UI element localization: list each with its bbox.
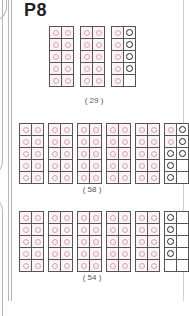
ten-frame-cell [177,136,188,147]
ten-frame-cell [107,260,118,271]
pink-circle-icon [35,215,41,221]
ten-frame-cell [20,136,31,147]
pink-circle-icon [110,163,116,169]
ten-frame-cell [49,136,60,147]
ten-frame-cell [177,148,188,159]
ten-frame-cell [107,248,118,259]
pink-circle-icon [84,78,90,84]
ten-frame-cell [119,124,130,135]
ten-frame-cell [20,124,31,135]
ten-frame-block [49,26,74,87]
ten-frame-cell [177,260,188,271]
pink-circle-icon [23,239,29,245]
ten-frame-cell [119,212,130,223]
pink-circle-icon [64,139,70,145]
pink-circle-icon [93,263,99,269]
ten-frame-cell [90,260,101,271]
ten-frame-cell [119,248,130,259]
pink-circle-icon [81,239,87,245]
ten-frame-cell [136,236,147,247]
ten-frame-cell [119,136,130,147]
pink-circle-icon [23,127,29,133]
black-circle-icon [167,150,174,157]
ten-frame-cell [165,124,176,135]
black-circle-icon [179,126,186,133]
pink-circle-icon [35,175,41,181]
pink-circle-icon [52,227,58,233]
pink-circle-icon [84,66,90,72]
pink-circle-icon [93,127,99,133]
pink-circle-icon [110,239,116,245]
ten-frame-cell [177,160,188,171]
pink-circle-icon [122,127,128,133]
pink-circle-icon [84,30,90,36]
ten-frame-cell [78,172,89,183]
ten-frame-cell [50,51,61,62]
ten-frame-cell [165,136,176,147]
ten-frame-cell [177,224,188,235]
ten-frame-cell [90,148,101,159]
pink-circle-icon [93,251,99,257]
ten-frame-cell [112,63,123,74]
pink-circle-icon [52,215,58,221]
ten-frame-cell [177,172,188,183]
ten-frame-cell [62,51,73,62]
pink-circle-icon [52,175,58,181]
pink-circle-icon [151,227,157,233]
black-circle-icon [126,53,133,60]
pink-circle-icon [93,227,99,233]
ten-frame-cell [136,172,147,183]
pink-circle-icon [35,239,41,245]
pink-circle-icon [151,151,157,157]
ten-frame-block [19,123,44,184]
pink-circle-icon [35,263,41,269]
ten-frame-cell [119,172,130,183]
ten-frame-cell [50,63,61,74]
pink-circle-icon [110,251,116,257]
pink-circle-icon [93,163,99,169]
pink-circle-icon [168,127,174,133]
ten-frame-cell [124,75,135,86]
black-circle-icon [126,41,133,48]
ten-frame-cell [148,236,159,247]
ten-frame-cell [148,212,159,223]
pink-circle-icon [139,163,145,169]
pink-circle-icon [35,227,41,233]
ten-frame-cell [136,160,147,171]
ten-frame-cell [78,160,89,171]
ten-frame-cell [61,248,72,259]
pink-circle-icon [35,251,41,257]
ten-frame-cell [148,172,159,183]
ten-frame-cell [107,160,118,171]
ten-frame-cell [32,160,43,171]
ten-frame-block [48,123,73,184]
ten-frame-cell [136,224,147,235]
ten-frame-cell [136,148,147,159]
ten-frame-cell [90,224,101,235]
pink-circle-icon [122,215,128,221]
pink-circle-icon [84,54,90,60]
ten-frame-cell [124,27,135,38]
ten-frame-cell [62,39,73,50]
pink-circle-icon [93,151,99,157]
ten-frame-block [48,211,73,272]
ten-frame-block [80,26,105,87]
ten-frame-cell [165,260,176,271]
pink-circle-icon [151,215,157,221]
pink-circle-icon [52,239,58,245]
ten-frame-cell [49,124,60,135]
answer-label: ( 29 ) [64,96,124,105]
pink-circle-icon [81,227,87,233]
ten-frame-cell [107,124,118,135]
ten-frame-cell [107,172,118,183]
ten-frame-cell [148,160,159,171]
pink-circle-icon [35,127,41,133]
pink-circle-icon [53,30,59,36]
pink-circle-icon [81,263,87,269]
ten-frame-cell [78,248,89,259]
pink-circle-icon [65,30,71,36]
pink-circle-icon [151,251,157,257]
pink-circle-icon [139,139,145,145]
ten-frame-cell [90,236,101,247]
ten-frame-cell [32,260,43,271]
